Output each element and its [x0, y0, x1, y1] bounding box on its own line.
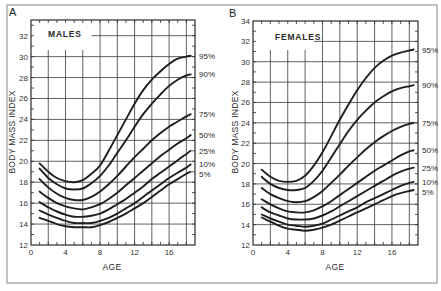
y-tick-label: 24 [241, 119, 250, 128]
y-tick-label: 26 [241, 98, 250, 107]
panel-title-females: FEMALES [275, 32, 321, 42]
y-tick-label: 24 [19, 115, 28, 124]
y-tick-label: 14 [241, 221, 250, 230]
x-tick-label: 0 [251, 248, 256, 257]
percentile-label: 75% [199, 110, 215, 119]
x-tick-label: 8 [320, 248, 325, 257]
percentile-label: 75% [422, 119, 438, 128]
x-tick-label: 8 [98, 248, 103, 257]
y-tick-label: 12 [19, 241, 28, 250]
y-tick-label: 22 [19, 136, 28, 145]
panel-letter-a: A [9, 6, 17, 18]
y-tick-label: 20 [241, 160, 250, 169]
y-tick-label: 26 [19, 94, 28, 103]
percentile-label: 10% [422, 178, 438, 187]
panel-title-males: MALES [48, 29, 82, 39]
x-tick-label: 12 [130, 248, 139, 257]
bmi-charts-canvas: A 1214161820222426283032 0481216 95%90%7… [0, 0, 441, 291]
y-tick-label: 12 [241, 241, 250, 250]
x-tick-label: 16 [387, 248, 396, 257]
x-axis-label: AGE [103, 262, 122, 272]
y-tick-label: 32 [241, 37, 250, 46]
percentile-label: 95% [422, 46, 438, 55]
y-tick-label: 28 [241, 78, 250, 87]
percentile-label: 5% [422, 188, 434, 197]
x-tick-label: 0 [29, 248, 34, 257]
y-tick-label: 22 [241, 139, 250, 148]
x-tick-label: 12 [353, 248, 362, 257]
x-tick-label: 4 [286, 248, 291, 257]
y-tick-label: 18 [19, 178, 28, 187]
y-tick-label: 32 [19, 32, 28, 41]
x-tick-label: 4 [63, 248, 68, 257]
y-tick-label: 20 [19, 157, 28, 166]
y-tick-label: 34 [241, 17, 250, 26]
percentile-label: 10% [199, 160, 215, 169]
y-axis-label: BODY MASS INDEX [230, 90, 240, 173]
percentile-label: 50% [422, 146, 438, 155]
y-tick-label: 14 [19, 220, 28, 229]
x-tick-label: 16 [165, 248, 174, 257]
y-tick-label: 16 [19, 199, 28, 208]
bmi-percentile-figure: A 1214161820222426283032 0481216 95%90%7… [0, 0, 441, 291]
percentile-label: 25% [422, 164, 438, 173]
percentile-label: 25% [199, 147, 215, 156]
y-axis-label: BODY MASS INDEX [7, 90, 17, 173]
percentile-label: 90% [422, 81, 438, 90]
percentile-labels: 95%90%75%50%25%10%5% [199, 52, 215, 180]
percentile-label: 5% [199, 170, 211, 179]
percentile-label: 50% [199, 131, 215, 140]
y-tick-label: 30 [241, 58, 250, 67]
y-tick-label: 30 [19, 53, 28, 62]
percentile-label: 90% [199, 70, 215, 79]
percentile-label: 95% [199, 52, 215, 61]
x-axis-label: AGE [326, 262, 345, 272]
panel-letter-b: B [229, 7, 236, 19]
y-tick-label: 28 [19, 74, 28, 83]
y-tick-label: 16 [241, 200, 250, 209]
y-tick-label: 18 [241, 180, 250, 189]
